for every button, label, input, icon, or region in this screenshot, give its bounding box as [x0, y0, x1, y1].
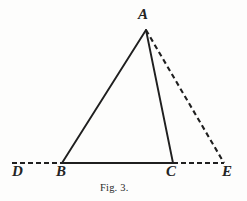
figure-caption: Fig. 3.	[100, 183, 129, 194]
vertex-label-d: D	[12, 164, 23, 179]
vertex-label-a: A	[138, 7, 148, 22]
vertex-label-e: E	[222, 164, 232, 179]
vertex-label-b: B	[56, 164, 66, 179]
segment-ae-dashed	[146, 30, 224, 163]
figure-container: A D B C E Fig. 3.	[0, 0, 247, 201]
segment-ab-solid	[62, 30, 146, 163]
vertex-label-c: C	[166, 164, 176, 179]
triangle-diagram-canvas	[0, 0, 247, 201]
segment-ac-solid	[146, 30, 173, 163]
